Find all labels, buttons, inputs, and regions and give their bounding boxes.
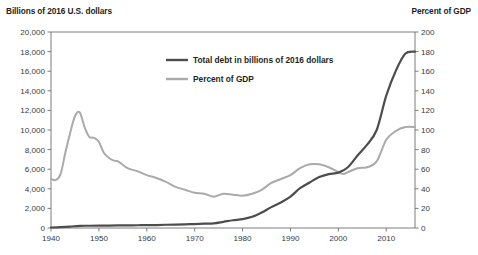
left-tick-label: 0 <box>40 224 45 233</box>
right-tick-label: 80 <box>421 146 431 155</box>
right-tick-label: 40 <box>421 185 431 194</box>
series-line <box>51 112 415 197</box>
left-tick-label: 14,000 <box>20 87 45 96</box>
right-tick-label: 60 <box>421 165 431 174</box>
left-tick-label: 6,000 <box>25 165 46 174</box>
right-tick-label: 100 <box>421 126 435 135</box>
left-tick-label: 16,000 <box>20 67 45 76</box>
x-axis-ticks: 19401950196019701980199020002010 <box>42 228 396 243</box>
chart-plot-area: 02,0004,0006,0008,00010,00012,00014,0001… <box>0 0 478 255</box>
left-axis-ticks: 02,0004,0006,0008,00010,00012,00014,0001… <box>20 28 51 233</box>
x-tick-label: 2010 <box>377 234 396 243</box>
legend-label: Percent of GDP <box>193 74 254 84</box>
right-tick-label: 200 <box>421 28 435 37</box>
right-tick-label: 0 <box>421 224 426 233</box>
left-tick-label: 2,000 <box>25 204 46 213</box>
left-tick-label: 18,000 <box>20 48 45 57</box>
x-tick-label: 1970 <box>186 234 205 243</box>
left-tick-label: 8,000 <box>25 146 46 155</box>
x-tick-label: 1940 <box>42 234 61 243</box>
right-tick-label: 160 <box>421 67 435 76</box>
chart-legend: Total debt in billions of 2016 dollarsPe… <box>166 55 334 84</box>
left-tick-label: 20,000 <box>20 28 45 37</box>
x-tick-label: 2000 <box>329 234 348 243</box>
legend-label: Total debt in billions of 2016 dollars <box>193 55 334 65</box>
right-tick-label: 120 <box>421 106 435 115</box>
left-tick-label: 12,000 <box>20 106 45 115</box>
right-tick-label: 140 <box>421 87 435 96</box>
x-tick-label: 1950 <box>90 234 109 243</box>
x-tick-label: 1980 <box>234 234 253 243</box>
right-tick-label: 180 <box>421 48 435 57</box>
left-tick-label: 4,000 <box>25 185 46 194</box>
x-tick-label: 1960 <box>138 234 157 243</box>
chart-figure: Billions of 2016 U.S. dollars Percent of… <box>0 0 478 255</box>
right-axis-ticks: 020406080100120140160180200 <box>415 28 435 233</box>
x-tick-label: 1990 <box>281 234 300 243</box>
right-tick-label: 20 <box>421 204 431 213</box>
left-tick-label: 10,000 <box>20 126 45 135</box>
